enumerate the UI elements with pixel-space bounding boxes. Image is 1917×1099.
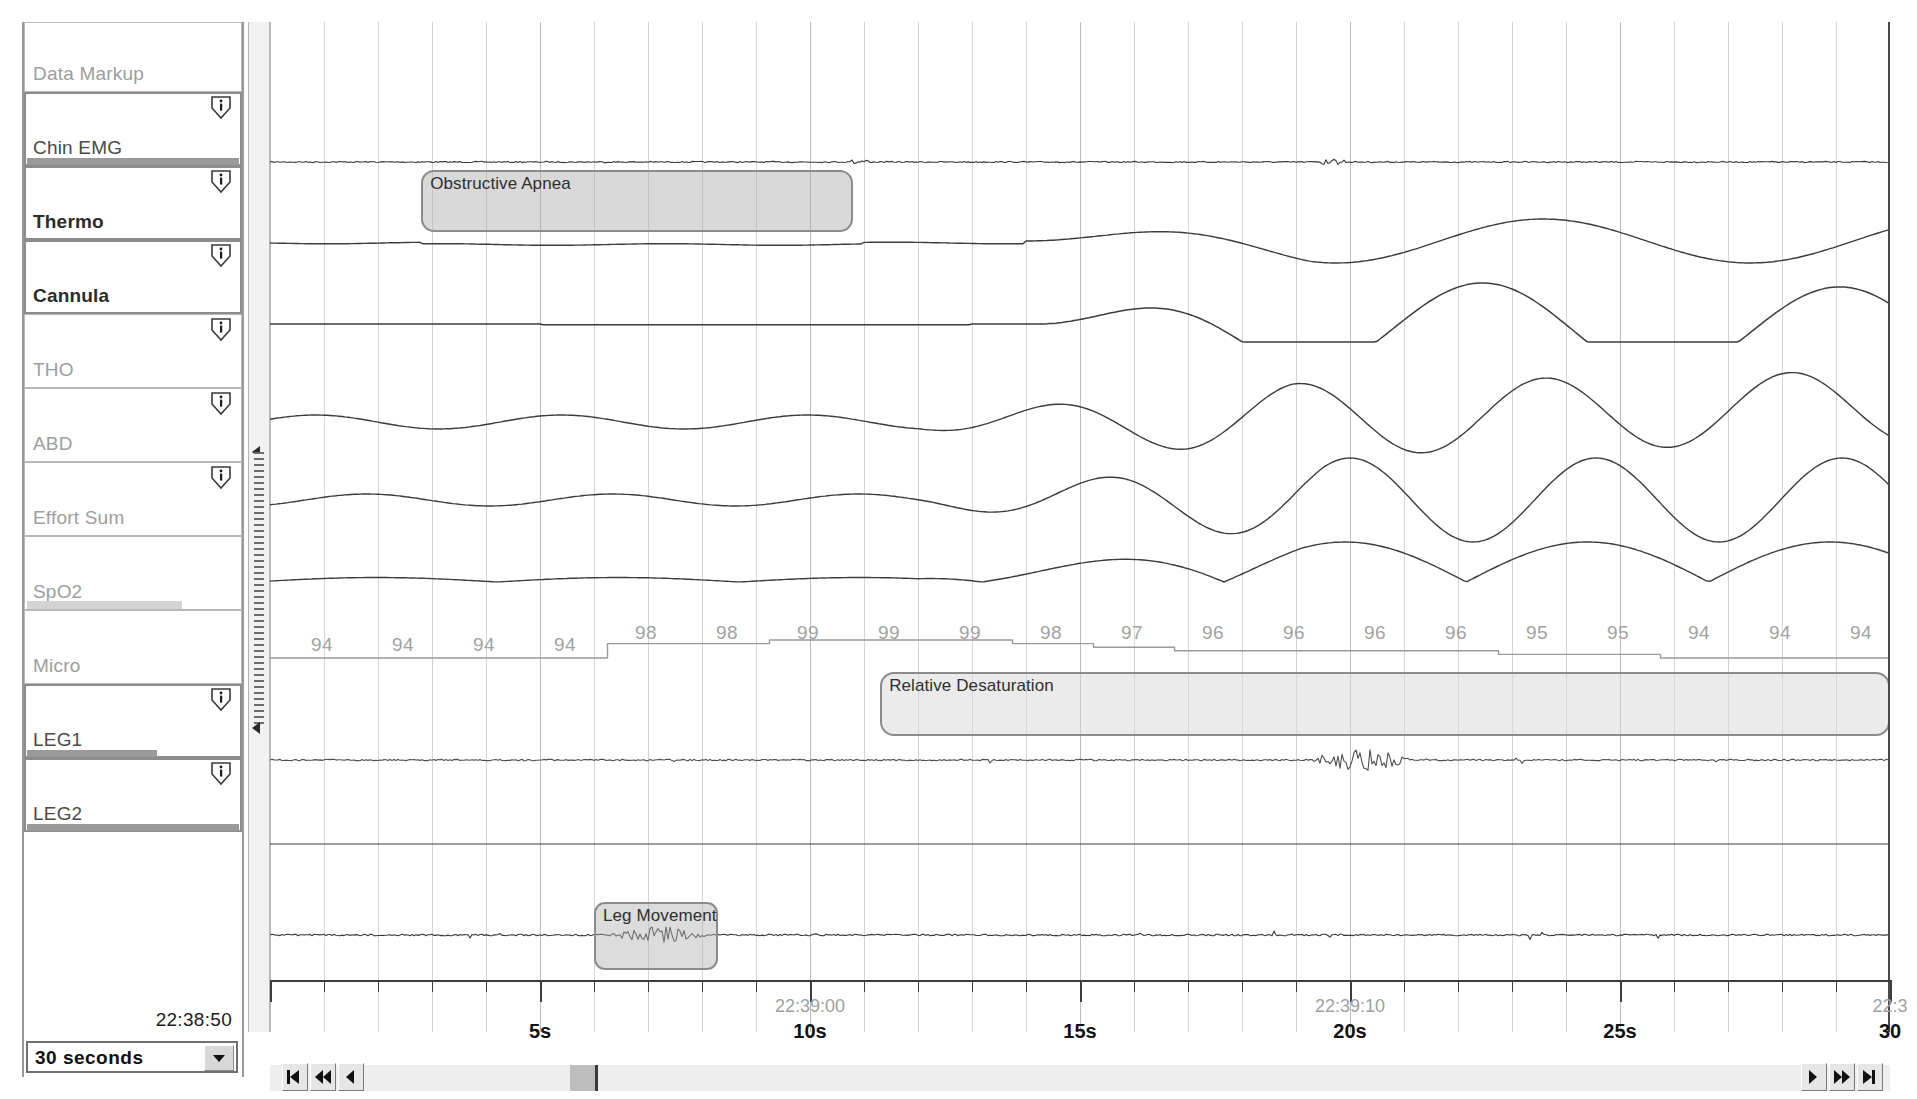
axis-clock-label: 22:39:10 xyxy=(1315,996,1385,1017)
axis-time-label: 15s xyxy=(1063,1020,1096,1043)
axis-tick xyxy=(1404,980,1405,992)
channel-label: ABD xyxy=(33,433,73,455)
info-icon[interactable] xyxy=(209,687,233,713)
trace-area[interactable]: 9494949498989999999897969696969595949494… xyxy=(270,22,1890,1032)
axis-tick xyxy=(1188,980,1189,992)
axis-time-label: 20s xyxy=(1333,1020,1366,1043)
nav-previous-button[interactable] xyxy=(338,1063,364,1091)
channel-gain-bar[interactable] xyxy=(27,601,182,609)
vertical-scrollbar[interactable] xyxy=(248,22,270,1032)
axis-time-label: 10s xyxy=(793,1020,826,1043)
spo2-value: 98 xyxy=(635,622,657,644)
channel-panel: Data MarkupChin EMGThermoCannulaTHOABDEf… xyxy=(22,22,244,1077)
spo2-value: 94 xyxy=(1850,622,1872,644)
info-icon[interactable] xyxy=(209,169,233,195)
spo2-value: 95 xyxy=(1607,622,1629,644)
axis-tick xyxy=(1080,980,1082,1002)
event-relative-desaturation[interactable]: Relative Desaturation xyxy=(880,672,1890,736)
channel-row-tho[interactable]: THO xyxy=(24,314,242,388)
trace-path xyxy=(270,373,1890,453)
axis-tick xyxy=(1512,980,1513,992)
spo2-value: 97 xyxy=(1121,622,1143,644)
spo2-value: 99 xyxy=(797,622,819,644)
axis-tick xyxy=(486,980,487,992)
channel-gain-bar[interactable] xyxy=(27,824,239,831)
spo2-value: 95 xyxy=(1526,622,1548,644)
info-icon[interactable] xyxy=(209,391,233,417)
scroll-track[interactable] xyxy=(254,452,264,727)
axis-time-label: 5s xyxy=(529,1020,551,1043)
channel-row-effort-sum[interactable]: Effort Sum xyxy=(24,462,242,536)
channel-label: LEG2 xyxy=(33,803,82,825)
channel-gain-bar[interactable] xyxy=(27,750,157,757)
scroll-down-arrow[interactable] xyxy=(252,722,260,734)
info-icon[interactable] xyxy=(209,465,233,491)
nav-rewind-button[interactable] xyxy=(310,1063,336,1091)
channel-label: Thermo xyxy=(33,211,104,233)
channel-label: Cannula xyxy=(33,285,109,307)
spo2-value: 94 xyxy=(392,634,414,656)
channel-row-leg1[interactable]: LEG1 xyxy=(24,684,242,758)
channel-row-spo2[interactable]: SpO2 xyxy=(24,536,242,610)
time-axis: 5s10s15s20s25s3022:39:0022:39:1022:3 xyxy=(270,980,1892,1040)
channel-row-leg2[interactable]: LEG2 xyxy=(24,758,242,832)
channel-row-data-markup[interactable]: Data Markup xyxy=(24,22,242,92)
epoch-duration-value: 30 seconds xyxy=(35,1047,144,1069)
horizontal-scrollbar[interactable] xyxy=(270,1065,1890,1091)
trace-path xyxy=(270,750,1890,771)
nav-forward-button[interactable] xyxy=(1829,1063,1855,1091)
nav-buttons-left xyxy=(282,1063,366,1093)
trace-path xyxy=(270,159,1890,164)
channel-gain-bar[interactable] xyxy=(27,158,239,165)
spo2-value: 96 xyxy=(1364,622,1386,644)
event-obstructive-apnea[interactable]: Obstructive Apnea xyxy=(421,170,853,232)
axis-tick xyxy=(648,980,649,992)
axis-tick xyxy=(270,980,272,1002)
channel-row-thermo[interactable]: Thermo xyxy=(24,166,242,240)
axis-tick xyxy=(1620,980,1622,1002)
axis-time-label: 25s xyxy=(1603,1020,1636,1043)
trace-path xyxy=(270,458,1890,542)
scroll-thumb[interactable] xyxy=(570,1065,596,1091)
epoch-start-time: 22:38:50 xyxy=(156,1009,232,1031)
spo2-value: 98 xyxy=(1040,622,1062,644)
info-icon[interactable] xyxy=(209,243,233,269)
info-icon[interactable] xyxy=(209,95,233,121)
axis-tick xyxy=(1242,980,1243,992)
channel-row-chin-emg[interactable]: Chin EMG xyxy=(24,92,242,166)
axis-tick xyxy=(378,980,379,992)
psg-viewer: Data MarkupChin EMGThermoCannulaTHOABDEf… xyxy=(0,0,1917,1099)
chevron-down-icon[interactable] xyxy=(204,1045,234,1071)
channel-row-micro[interactable]: Micro xyxy=(24,610,242,684)
event-leg-movement[interactable]: Leg Movement xyxy=(594,902,718,970)
channel-label: Effort Sum xyxy=(33,507,124,529)
spo2-value: 96 xyxy=(1445,622,1467,644)
nav-last-button[interactable] xyxy=(1857,1063,1883,1091)
info-icon[interactable] xyxy=(209,317,233,343)
trace-path xyxy=(270,927,1890,942)
trace-path xyxy=(270,283,1890,342)
spo2-value: 94 xyxy=(1769,622,1791,644)
axis-tick xyxy=(1026,980,1027,992)
nav-buttons-right xyxy=(1801,1063,1885,1093)
axis-tick xyxy=(540,980,542,1002)
spo2-value: 94 xyxy=(311,634,333,656)
channel-label: LEG1 xyxy=(33,729,82,751)
spo2-value: 99 xyxy=(959,622,981,644)
axis-tick xyxy=(1134,980,1135,992)
channel-label: Micro xyxy=(33,655,80,677)
nav-first-button[interactable] xyxy=(282,1063,308,1091)
axis-tick xyxy=(756,980,757,992)
event-label: Obstructive Apnea xyxy=(430,174,571,194)
axis-tick xyxy=(1728,980,1729,992)
spo2-value: 94 xyxy=(1688,622,1710,644)
axis-tick xyxy=(432,980,433,992)
channel-row-cannula[interactable]: Cannula xyxy=(24,240,242,314)
epoch-duration-select[interactable]: 30 seconds xyxy=(26,1041,238,1073)
nav-next-button[interactable] xyxy=(1801,1063,1827,1091)
axis-tick xyxy=(324,980,325,992)
axis-clock-label: 22:3 xyxy=(1872,996,1907,1017)
info-icon[interactable] xyxy=(209,761,233,787)
channel-row-abd[interactable]: ABD xyxy=(24,388,242,462)
axis-tick xyxy=(1566,980,1567,992)
